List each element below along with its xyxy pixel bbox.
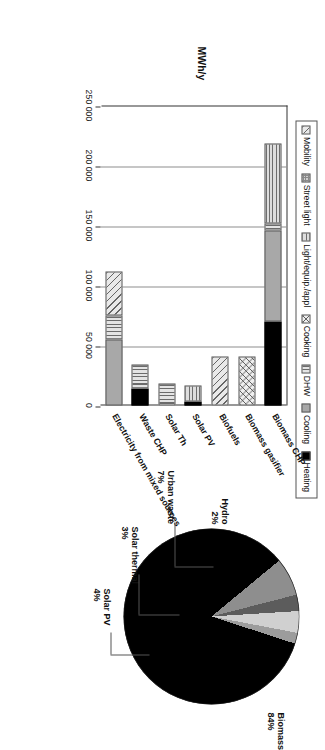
bar-segment-mobility bbox=[211, 356, 228, 405]
bar-chart-category-label: Solar PV bbox=[190, 412, 217, 448]
bar-segment-heating bbox=[185, 401, 202, 405]
bar-chart-legend: Mobility Street light Light/equip./appl … bbox=[295, 120, 317, 498]
bar-segment-dhw bbox=[131, 364, 148, 388]
bar-chart-bar bbox=[105, 105, 122, 405]
pie-label-solar-thermal-name: Solar thermal bbox=[129, 526, 139, 584]
legend-item-cooling: Cooling bbox=[301, 403, 311, 444]
legend-label-cooling: Cooling bbox=[301, 414, 311, 443]
pie-label-solar-pv: Solar PV 4% bbox=[91, 588, 111, 625]
bar-segment-mobility bbox=[105, 271, 122, 315]
leader-line-solar-thermal-v bbox=[138, 614, 179, 615]
pie-label-solar-thermal-pct: 3% bbox=[119, 526, 129, 584]
bar-chart-value-tick-label: 150 000 bbox=[83, 209, 93, 241]
pie-label-urban-waste: Urban waste 7% bbox=[155, 470, 175, 524]
pie-label-solar-pv-pct: 4% bbox=[91, 588, 101, 625]
bar-chart-value-tick-label: 50 000 bbox=[83, 332, 93, 359]
legend-label-cooking: Cooking bbox=[301, 325, 311, 357]
bar-chart-panel: Mobility Street light Light/equip./appl … bbox=[0, 0, 325, 470]
pie-label-hydro: Hydro 2% bbox=[209, 484, 229, 524]
pie-label-solar-thermal: Solar thermal 3% bbox=[119, 526, 139, 584]
legend-label-light-equip: Light/equip./appl bbox=[301, 244, 311, 307]
pie-label-solar-pv-name: Solar PV bbox=[101, 588, 111, 625]
pie-label-biomass: Biomass 84% bbox=[265, 712, 285, 750]
pie-label-hydro-name: Hydro bbox=[219, 498, 229, 524]
pie-label-urban-waste-pct: 7% bbox=[155, 470, 165, 524]
leader-line-solar-thermal-h bbox=[138, 574, 139, 614]
bar-chart-bar bbox=[238, 105, 255, 405]
bar-segment-light-equip-appl bbox=[264, 143, 281, 222]
bar-segment-dhw bbox=[105, 315, 122, 339]
bar-chart-category-label: Biofuels bbox=[216, 412, 242, 447]
pie-chart-graphic bbox=[123, 528, 299, 704]
bar-segment-dhw bbox=[158, 383, 175, 405]
legend-item-cooking: Cooking bbox=[301, 314, 311, 357]
pie-chart-wrapper bbox=[123, 528, 299, 704]
bar-segment-heating bbox=[131, 388, 148, 405]
bar-chart-value-tick-label: 100 000 bbox=[83, 269, 93, 301]
bar-chart-value-tick-label: 0 bbox=[83, 403, 93, 408]
bar-chart-axis-tick bbox=[95, 106, 100, 107]
legend-swatch-dhw bbox=[302, 364, 311, 373]
legend-swatch-mobility bbox=[302, 125, 311, 134]
bar-segment-cooking bbox=[238, 356, 255, 405]
bar-chart-axis-tick bbox=[95, 346, 100, 347]
bar-chart-axis-tick bbox=[95, 286, 100, 287]
legend-label-street-light: Street light bbox=[301, 184, 311, 225]
bar-chart-axis-tick bbox=[95, 406, 100, 407]
pie-label-biomass-pct: 84% bbox=[265, 712, 275, 750]
bar-chart-value-tick-label: 200 000 bbox=[83, 149, 93, 181]
leader-line-urban-waste-h bbox=[174, 522, 175, 566]
bar-chart-bar bbox=[211, 105, 228, 405]
pie-label-urban-waste-name: Urban waste bbox=[165, 470, 175, 524]
legend-swatch-cooking bbox=[302, 314, 311, 323]
bar-chart-bar bbox=[264, 105, 281, 405]
bar-chart-axis-tick bbox=[95, 166, 100, 167]
bar-chart-category-label: Solar Th bbox=[163, 412, 189, 447]
legend-item-dhw: DHW bbox=[301, 364, 311, 396]
pie-label-hydro-pct: 2% bbox=[209, 484, 219, 524]
legend-swatch-street-light bbox=[302, 173, 311, 182]
legend-swatch-cooling bbox=[302, 403, 311, 412]
bar-segment-dhw bbox=[264, 223, 281, 230]
bar-segment-heating bbox=[264, 321, 281, 405]
legend-label-mobility: Mobility bbox=[301, 137, 311, 166]
pie-chart-panel: Biomass 84% Hydro 2% Urban waste 7% Sola… bbox=[0, 470, 325, 749]
bar-chart-bar bbox=[185, 105, 202, 405]
bar-chart-value-tick-label: 250 000 bbox=[83, 89, 93, 121]
legend-item-street-light: Street light bbox=[301, 173, 311, 226]
legend-item-light-equip: Light/equip./appl bbox=[301, 232, 311, 307]
bar-chart-axis-tick bbox=[95, 226, 100, 227]
bar-chart-bar bbox=[158, 105, 175, 405]
legend-item-mobility: Mobility bbox=[301, 125, 311, 166]
bar-segment-cooling bbox=[264, 230, 281, 321]
leader-line-solar-pv-v bbox=[110, 654, 149, 655]
bar-segment-light-equip-appl bbox=[185, 385, 202, 402]
leader-line-urban-waste-v bbox=[174, 566, 213, 567]
bar-chart-axis-title: MWh/y bbox=[195, 46, 207, 80]
bar-segment-cooling bbox=[105, 339, 122, 405]
legend-label-dhw: DHW bbox=[301, 375, 311, 396]
bar-chart-plot-area bbox=[101, 105, 287, 405]
pie-label-biomass-name: Biomass bbox=[275, 712, 285, 750]
bar-chart-bar bbox=[131, 105, 148, 405]
leader-line-solar-pv-h bbox=[110, 632, 111, 654]
legend-swatch-light-equip bbox=[302, 232, 311, 241]
